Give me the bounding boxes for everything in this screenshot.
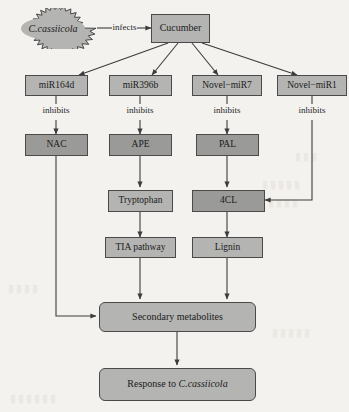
node-ape-label: APE bbox=[132, 140, 150, 150]
node-response-label: Response to C.cassiicola bbox=[127, 379, 227, 390]
node-novel-mir1[interactable]: Novel−miR1 bbox=[277, 75, 347, 96]
node-tia-pathway[interactable]: TIA pathway bbox=[105, 237, 176, 258]
edge-cucumber-to-novelmir1 bbox=[202, 43, 297, 75]
edge-label-inhibits-mir164d: inhibits bbox=[33, 105, 79, 115]
node-nac-label: NAC bbox=[46, 140, 66, 150]
node-novel-mir1-label: Novel−miR1 bbox=[287, 81, 337, 91]
pathogen-node-c-cassiicola[interactable]: C.cassiicola bbox=[8, 8, 98, 49]
node-novel-mir7-label: Novel−miR7 bbox=[202, 81, 252, 91]
node-tryptophan[interactable]: Tryptophan bbox=[108, 190, 173, 212]
node-4cl[interactable]: 4CL bbox=[192, 190, 265, 212]
node-mir164d[interactable]: miR164d bbox=[25, 75, 88, 96]
node-lignin[interactable]: Lignin bbox=[192, 237, 263, 258]
edge-label-infects: infects bbox=[108, 22, 141, 32]
node-cucumber[interactable]: Cucumber bbox=[151, 14, 210, 43]
node-ape[interactable]: APE bbox=[109, 134, 172, 156]
node-secondary-metabolites[interactable]: Secondary metabolites bbox=[99, 302, 256, 332]
node-response-to-pathogen[interactable]: Response to C.cassiicola bbox=[99, 368, 256, 401]
node-pal-label: PAL bbox=[219, 140, 236, 150]
node-mir164d-label: miR164d bbox=[39, 81, 74, 91]
node-mir396b-label: miR396b bbox=[123, 81, 158, 91]
pathogen-label: C.cassiicola bbox=[28, 23, 77, 34]
node-cucumber-label: Cucumber bbox=[160, 23, 202, 34]
connector-layer bbox=[0, 0, 349, 412]
node-4cl-label: 4CL bbox=[220, 196, 237, 206]
node-lignin-label: Lignin bbox=[215, 243, 240, 253]
node-pal[interactable]: PAL bbox=[196, 134, 259, 156]
node-novel-mir7[interactable]: Novel−miR7 bbox=[192, 75, 262, 96]
pathway-diagram-canvas: ▮▮▮ ▮▮▮▮▮ ▮▮▮▮ ▮▮▮▮ ▮▮▮▮▮ ▮▮▮▮▮▮ bbox=[0, 0, 349, 412]
node-tia-pathway-label: TIA pathway bbox=[116, 243, 166, 253]
node-secondary-metabolites-label: Secondary metabolites bbox=[132, 312, 223, 323]
node-tryptophan-label: Tryptophan bbox=[119, 196, 163, 206]
edge-cucumber-to-novelmir7 bbox=[192, 43, 218, 75]
edge-nac-to-secondary bbox=[56, 156, 96, 316]
node-response-prefix: Response to bbox=[127, 378, 178, 389]
edge-novelmir1-to-4cl bbox=[265, 120, 312, 200]
node-response-species: C.cassiicola bbox=[178, 378, 227, 389]
node-mir396b[interactable]: miR396b bbox=[109, 75, 172, 96]
node-nac[interactable]: NAC bbox=[25, 134, 88, 156]
edge-label-inhibits-novelmir1: inhibits bbox=[289, 105, 335, 115]
edge-label-inhibits-mir396b: inhibits bbox=[117, 105, 163, 115]
edge-label-inhibits-novelmir7: inhibits bbox=[204, 105, 250, 115]
